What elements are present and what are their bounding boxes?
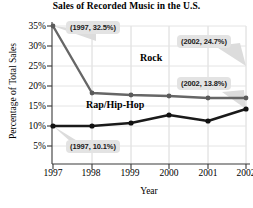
series-label-rock: Rock <box>140 52 162 63</box>
series-line-rap-hip-hop <box>50 106 248 128</box>
chart-container: Sales of Recorded Music in the U.S. Perc… <box>0 0 253 208</box>
callout-rock-1997: (1997, 32.5%) <box>66 21 120 34</box>
callout-rap-2002: (2002, 13.8%) <box>177 77 231 90</box>
callout-rap-1997: (1997, 10.1%) <box>66 140 120 153</box>
callout-rock-2002: (2002, 24.7%) <box>177 35 231 48</box>
series-label-rap-hip-hop: Rap/Hip-Hop <box>86 99 144 110</box>
